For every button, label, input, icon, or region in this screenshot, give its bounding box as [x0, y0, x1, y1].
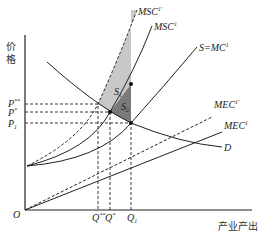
mec1-line: [25, 132, 222, 210]
label-demand: D: [223, 142, 232, 153]
label-mec1: MEC1: [223, 120, 248, 131]
y-axis-label-1: 价: [6, 41, 16, 52]
y-axis-label-2: 格: [6, 53, 16, 65]
label-msc1-prime: MSC1': [137, 6, 163, 17]
point-q1: [129, 121, 133, 125]
demand-curve: [47, 62, 222, 147]
x-axis-label: 产业产出: [218, 220, 258, 232]
quantity-label-q-double-star: Q**: [92, 212, 105, 223]
guide-p-double-star: [25, 104, 98, 210]
label-msc1: MSC1: [153, 21, 177, 32]
origin-label: O: [13, 209, 20, 220]
mec1-prime-line: [25, 117, 212, 210]
guide-p1: [25, 123, 131, 210]
guide-p-star: [25, 112, 110, 210]
quantity-label-q-star: Q*: [105, 212, 115, 223]
point-msc1-at-q1: [129, 82, 133, 86]
externality-diagram: 价 格 产业产出 O P** P* P1 Q** Q* Q1 MSC1' MSC…: [0, 0, 264, 234]
price-label-p-star: P*: [7, 107, 17, 118]
price-label-p1: P1: [7, 118, 17, 130]
quantity-label-q1: Q1: [127, 212, 137, 224]
label-supply: S=MC1: [199, 42, 229, 53]
point-star: [108, 110, 112, 114]
label-mec1-prime: MEC1': [213, 99, 240, 110]
msc1-curve: [27, 26, 152, 166]
